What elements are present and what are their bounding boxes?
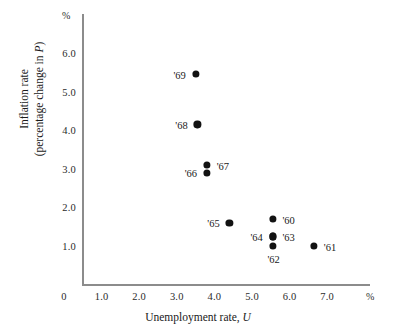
x-tick-label: 6.0 [275, 291, 305, 302]
x-tick-label: 3.0 [162, 291, 192, 302]
x-tick-label: 2.0 [124, 291, 154, 302]
y-axis-title-line2-prefix: (percentage change in [33, 53, 45, 157]
data-point [203, 161, 210, 168]
x-axis-title: Unemployment rate, U [0, 311, 396, 323]
x-tick-label: 1.0 [87, 291, 117, 302]
data-point-label: '68 [175, 119, 187, 130]
y-axis-title-line2: (percentage change in P) [32, 0, 47, 199]
y-axis-title: Inflation rate (percentage change in P) [17, 0, 51, 199]
data-point-label: '60 [282, 214, 294, 225]
data-point [269, 215, 276, 222]
x-axis-percent-mark: % [366, 291, 374, 302]
data-point-label: '67 [217, 160, 229, 171]
y-axis-line [82, 14, 84, 285]
data-point [194, 121, 201, 128]
x-tick-label: 0 [49, 291, 79, 302]
x-tick-label: 5.0 [237, 291, 267, 302]
x-axis-title-text: Unemployment rate, [145, 311, 242, 323]
x-axis-title-variable: U [243, 311, 251, 323]
x-tick-label: 4.0 [199, 291, 229, 302]
y-axis-percent-mark: % [62, 10, 70, 21]
y-axis-title-line2-suffix: ) [33, 42, 45, 46]
x-tick-label: 7.0 [312, 291, 342, 302]
y-tick-label: 5.0 [50, 87, 76, 98]
y-tick-label: 4.0 [50, 125, 76, 136]
y-tick-label: 3.0 [50, 164, 76, 175]
data-point-label: '69 [173, 69, 185, 80]
data-point [269, 242, 276, 249]
y-tick-label: 6.0 [50, 48, 76, 59]
data-point-label: '65 [207, 218, 219, 229]
data-point-label: '63 [282, 231, 294, 242]
data-point [226, 219, 233, 226]
data-point [269, 233, 276, 240]
data-point-label: '66 [185, 168, 197, 179]
x-axis-line [82, 284, 370, 286]
y-axis-title-line1: Inflation rate [17, 0, 32, 199]
data-point [203, 169, 210, 176]
phillips-curve-scatter-chart: % % 1.02.03.04.05.06.0 01.02.03.04.05.06… [0, 0, 396, 334]
data-point-label: '62 [267, 254, 279, 265]
data-point-label: '64 [250, 231, 262, 242]
data-point [192, 71, 199, 78]
data-point [310, 242, 317, 249]
y-axis-title-variable: P [33, 46, 45, 53]
y-tick-label: 1.0 [50, 241, 76, 252]
y-tick-label: 2.0 [50, 202, 76, 213]
data-point-label: '61 [324, 241, 336, 252]
